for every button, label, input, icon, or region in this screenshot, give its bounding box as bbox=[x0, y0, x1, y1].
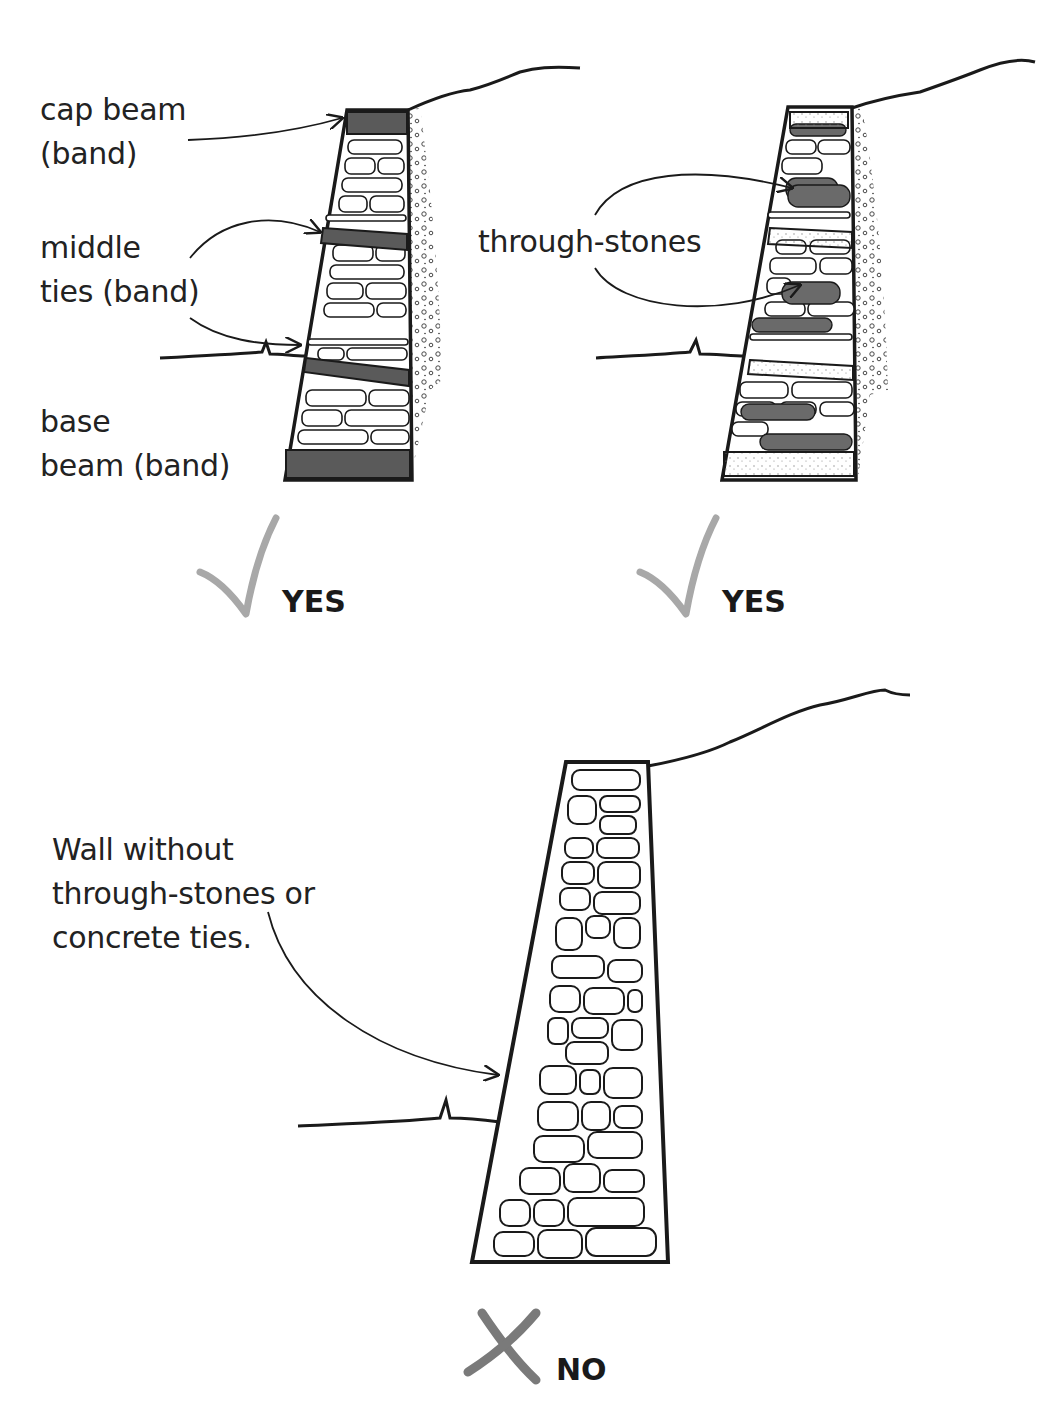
verdict-yes-1: YES bbox=[282, 584, 346, 619]
check-icon-1 bbox=[200, 518, 276, 614]
middle-ties-label: middle ties (band) bbox=[40, 226, 199, 314]
cap-beam-label: cap beam (band) bbox=[40, 88, 186, 176]
verdict-yes-2: YES bbox=[722, 584, 786, 619]
cross-icon bbox=[468, 1313, 536, 1380]
check-icon-2 bbox=[640, 518, 716, 614]
verdict-no: NO bbox=[556, 1352, 607, 1387]
base-beam-band bbox=[286, 450, 410, 478]
retaining-wall-diagram bbox=[0, 0, 1063, 1420]
through-stone-wall-panel bbox=[595, 60, 1035, 480]
cap-beam-band bbox=[347, 112, 407, 134]
plain-wall-note: Wall without through-stones or concrete … bbox=[52, 828, 315, 960]
base-beam-label: base beam (band) bbox=[40, 400, 230, 488]
base-beam-band bbox=[724, 452, 854, 476]
through-stones-label: through-stones bbox=[478, 220, 701, 264]
gravel-backfill bbox=[852, 108, 888, 478]
cap-beam-band bbox=[790, 112, 848, 128]
plain-wall-panel bbox=[268, 690, 910, 1262]
